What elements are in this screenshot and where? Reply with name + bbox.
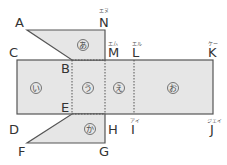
reading-L: エル: [132, 40, 142, 46]
reading-N: エヌ: [99, 7, 109, 14]
net-diagram: A N C B M L K E D H I J F G エヌ エム エル ケー …: [0, 0, 227, 165]
point-label-J: J: [209, 122, 214, 137]
point-label-D: D: [9, 122, 19, 137]
point-label-F: F: [18, 144, 25, 159]
svg-text:え: え: [115, 84, 123, 93]
point-label-E: E: [61, 100, 69, 115]
face-label-e: え: [114, 83, 125, 94]
reading-I: アイ: [130, 117, 140, 124]
face-label-u: う: [83, 83, 94, 94]
face-label-ka: か: [85, 124, 96, 135]
point-label-L: L: [132, 45, 140, 60]
svg-text:い: い: [32, 84, 40, 93]
svg-text:う: う: [84, 84, 92, 93]
face-label-o: お: [168, 83, 179, 94]
point-label-N: N: [99, 15, 109, 30]
svg-text:あ: あ: [79, 41, 87, 50]
reading-J: ジェイ: [207, 117, 222, 124]
point-label-G: G: [99, 144, 109, 159]
point-label-K: K: [208, 45, 217, 60]
point-label-A: A: [15, 15, 24, 30]
point-label-I: I: [131, 122, 135, 137]
point-label-C: C: [9, 45, 18, 60]
point-label-H: H: [108, 122, 118, 137]
svg-text:か: か: [86, 125, 94, 134]
point-label-M: M: [108, 45, 119, 60]
svg-text:お: お: [169, 84, 177, 93]
face-label-a: あ: [78, 40, 89, 51]
face-label-i: い: [31, 83, 42, 94]
point-label-B: B: [61, 61, 70, 76]
reading-K: ケー: [208, 40, 218, 46]
face-a-trapezoid: [27, 30, 105, 60]
reading-M: エム: [108, 40, 118, 46]
